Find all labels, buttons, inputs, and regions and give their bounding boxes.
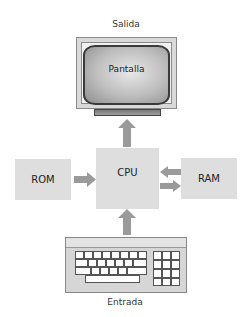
screen-label: Pantalla [109, 64, 145, 74]
monitor-stand [94, 109, 161, 116]
cpu-label: CPU [117, 167, 137, 178]
arrow-cpu-to-ram-icon [160, 180, 181, 192]
ram-node: RAM [181, 158, 237, 199]
output-label: Salida [96, 19, 156, 29]
arrow-input-to-cpu-icon [118, 209, 136, 235]
rom-label: ROM [31, 174, 54, 185]
ram-label: RAM [198, 173, 220, 184]
screen-node: Pantalla [83, 45, 170, 105]
cpu-node: CPU [96, 148, 159, 209]
arrow-ram-to-cpu-icon [160, 166, 181, 178]
arrow-rom-to-cpu-icon [74, 172, 96, 187]
rom-node: ROM [15, 159, 71, 200]
input-label: Entrada [90, 297, 160, 307]
keyboard-icon [65, 237, 187, 293]
arrow-cpu-to-screen-icon [118, 119, 136, 147]
keyboard-top-bar [66, 238, 186, 248]
